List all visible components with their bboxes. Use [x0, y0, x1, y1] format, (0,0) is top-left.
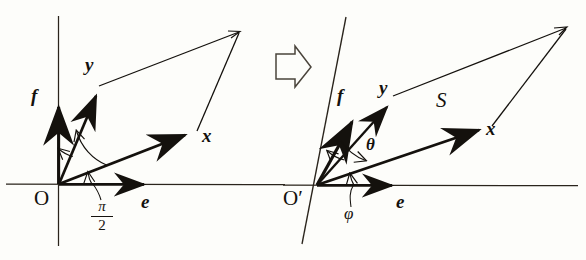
right-label-y: y [379, 78, 387, 97]
right-label-theta: θ [366, 136, 375, 153]
right-label-x: x [486, 119, 496, 138]
figure-canvas [0, 0, 586, 260]
left-angle-arc-y-to-x [77, 131, 108, 166]
right-oblique-axis [302, 17, 346, 244]
left-parallelogram-edge-right [197, 33, 239, 131]
left-angle-arc-x-to-e [88, 173, 92, 185]
right-map-label-S: S [436, 90, 447, 111]
left-angle-pi-over-two: π 2 [91, 199, 113, 234]
right-diagram [283, 17, 578, 244]
fraction-numerator: π [91, 199, 113, 215]
left-origin-label: O [34, 188, 49, 209]
left-label-y: y [85, 55, 93, 74]
left-label-f: f [31, 86, 37, 105]
right-label-e: e [396, 192, 404, 211]
left-label-x: x [202, 126, 212, 145]
right-angle-arc-phi [350, 174, 354, 185]
right-origin-label: O′ [283, 188, 303, 209]
linear-map-figure: O e f x y π 2 O′ e f x y S θ φ [0, 0, 586, 260]
right-label-f: f [337, 86, 343, 105]
right-label-phi: φ [344, 205, 353, 222]
left-parallelogram-edge-top [99, 32, 239, 86]
left-label-e: e [141, 192, 149, 211]
fraction-denominator: 2 [91, 218, 113, 234]
transform-arrow-icon [276, 46, 311, 87]
right-parallelogram-edge-right [492, 29, 566, 126]
